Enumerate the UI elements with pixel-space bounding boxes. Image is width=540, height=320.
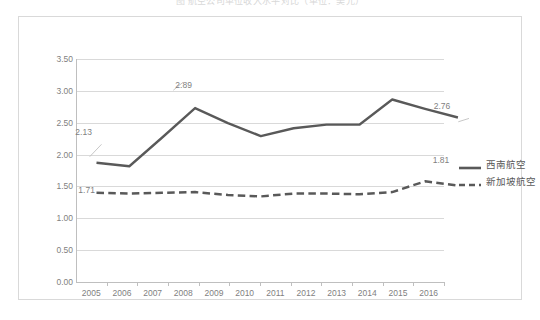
plot-area (76, 59, 444, 282)
x-axis-tick-mark (383, 282, 384, 286)
x-axis-tick-mark (444, 282, 445, 286)
gridline (76, 59, 444, 60)
gridline (76, 250, 444, 251)
gridline (76, 91, 444, 92)
x-axis-tick-label: 2016 (409, 289, 449, 298)
chart-legend: 西南航空新加坡航空 (459, 156, 535, 190)
x-axis-tick-mark (168, 282, 169, 286)
solid-line-icon (459, 159, 481, 169)
data-point-label: 1.71 (78, 186, 95, 195)
legend-label: 西南航空 (486, 157, 526, 171)
x-axis-tick-mark (291, 282, 292, 286)
x-axis-tick-mark (352, 282, 353, 286)
x-axis-tick-mark (107, 282, 108, 286)
chart-frame: 0.000.501.001.502.002.503.003.50 2005200… (18, 16, 522, 300)
x-axis-tick-mark (260, 282, 261, 286)
y-axis-tick-label: 3.50 (41, 55, 73, 64)
data-point-label: 1.81 (433, 156, 450, 165)
y-axis-tick-label: 3.00 (41, 87, 73, 96)
y-axis-tick-label: 0.50 (41, 246, 73, 255)
x-axis-tick-mark (229, 282, 230, 286)
y-axis-tick-label: 1.50 (41, 182, 73, 191)
y-axis-tick-label: 0.00 (41, 278, 73, 287)
x-axis-tick-mark (137, 282, 138, 286)
chart-title-truncated: 图 航空公司单位收入水平对比（单位：美元） (0, 0, 540, 6)
y-axis-tick-label: 2.50 (41, 119, 73, 128)
data-point-label: 2.76 (434, 102, 451, 111)
y-axis-tick-labels: 0.000.501.001.502.002.503.003.50 (37, 17, 73, 301)
y-axis-tick-label: 1.00 (41, 214, 73, 223)
y-axis-tick-label: 2.00 (41, 151, 73, 160)
gridline (76, 155, 444, 156)
data-point-label: 2.89 (175, 81, 192, 90)
legend-item[interactable]: 西南航空 (459, 156, 535, 171)
data-point-label: 2.13 (75, 128, 92, 137)
gridline (76, 123, 444, 124)
gridline (76, 186, 444, 187)
gridline (76, 218, 444, 219)
legend-item[interactable]: 新加坡航空 (459, 173, 535, 188)
x-axis-tick-mark (199, 282, 200, 286)
legend-label: 新加坡航空 (486, 174, 536, 188)
y-axis-line (76, 59, 77, 283)
dashed-line-icon (459, 176, 481, 186)
label-leader-line (458, 118, 469, 121)
x-axis-tick-mark (413, 282, 414, 286)
x-axis-tick-mark (321, 282, 322, 286)
